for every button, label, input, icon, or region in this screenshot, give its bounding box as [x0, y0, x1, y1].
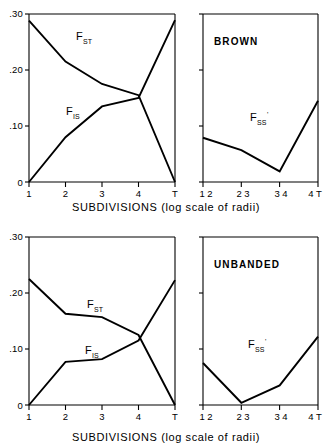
y-label-010-top-left: .10 [9, 120, 23, 131]
panel-bottom-right: 1 2 2 3 3 4 4 T UNBANDED F SS ' [199, 237, 322, 422]
curve-label-fis-top-left: F IS [66, 105, 80, 120]
x-label-2-top-left: 2 [63, 188, 68, 199]
x-label-4-bottom-left: 4 [136, 411, 141, 422]
curve-label-fst-bottom-left: F ST [87, 298, 104, 313]
curve-label-fst-text-bl: F [87, 298, 94, 310]
curve-fss-top-right [203, 101, 318, 172]
x-label-2-bottom-left: 2 [63, 411, 68, 422]
figure-container: .30 .20 .10 0 1 2 3 4 T F ST F IS [0, 0, 328, 448]
x-label-12-bottom-right: 1 2 [199, 411, 212, 422]
curve-label-fis-sub: IS [73, 113, 80, 120]
panel-title-unbanded: UNBANDED [214, 259, 280, 270]
x-label-1-top-left: 1 [26, 188, 31, 199]
y-label-030-top-left: .30 [9, 8, 23, 19]
x-label-1-bottom-left: 1 [26, 411, 31, 422]
x-label-T-top-left: T [172, 188, 178, 199]
curve-label-fst-top-left: F ST [76, 30, 93, 45]
x-label-3-top-left: 3 [99, 188, 104, 199]
x-label-4-top-left: 4 [136, 188, 141, 199]
curve-label-fss-prime-br: ' [265, 338, 266, 345]
x-axis-caption-top: SUBDIVISIONS (log scale of radii) [72, 201, 260, 213]
curve-label-fss-text: F [250, 111, 257, 123]
x-axis-caption-bottom: SUBDIVISIONS (log scale of radii) [72, 431, 260, 443]
curve-label-fis-bottom-left: F IS [85, 344, 99, 359]
curve-label-fst-sub: ST [83, 38, 93, 45]
curve-label-fss-sub: SS [257, 119, 267, 126]
x-label-34-top-right: 3 4 [274, 188, 287, 199]
curve-label-fis-sub-bl: IS [92, 352, 99, 359]
curve-label-fss-sub-br: SS [255, 346, 265, 353]
y-label-0-bottom-left: 0 [18, 400, 23, 411]
y-label-030-bottom-left: .30 [9, 231, 23, 242]
panel-top-left: .30 .20 .10 0 1 2 3 4 T F ST F IS [9, 8, 178, 199]
x-label-3-bottom-left: 3 [99, 411, 104, 422]
x-label-34-bottom-right: 3 4 [274, 411, 287, 422]
panel-bottom-left: .30 .20 .10 0 1 2 3 4 T F ST F IS [9, 231, 178, 422]
curve-label-fis-text: F [66, 105, 73, 117]
curve-fst-top-left [29, 21, 175, 182]
y-label-0-top-left: 0 [18, 177, 23, 188]
x-label-23-top-right: 2 3 [236, 188, 249, 199]
panel-title-brown: BROWN [214, 36, 258, 47]
curve-label-fss-bottom-right: F SS ' [248, 338, 266, 353]
curve-label-fst-text: F [76, 30, 83, 42]
x-label-12-top-right: 1 2 [199, 188, 212, 199]
x-label-23-bottom-right: 2 3 [236, 411, 249, 422]
panel-top-right: 1 2 2 3 3 4 4 T BROWN F SS ' [199, 14, 322, 199]
curve-label-fss-text-br: F [248, 338, 255, 350]
curve-label-fis-text-bl: F [85, 344, 92, 356]
x-label-4T-top-right: 4 T [308, 188, 322, 199]
curve-label-fss-top-right: F SS ' [250, 111, 268, 126]
y-label-020-top-left: .20 [9, 64, 23, 75]
x-label-4T-bottom-right: 4 T [308, 411, 322, 422]
curve-label-fss-prime: ' [267, 111, 268, 118]
x-label-T-bottom-left: T [172, 411, 178, 422]
y-label-020-bottom-left: .20 [9, 287, 23, 298]
y-label-010-bottom-left: .10 [9, 343, 23, 354]
curve-fst-bottom-left [29, 279, 175, 405]
curve-label-fst-sub-bl: ST [94, 306, 104, 313]
